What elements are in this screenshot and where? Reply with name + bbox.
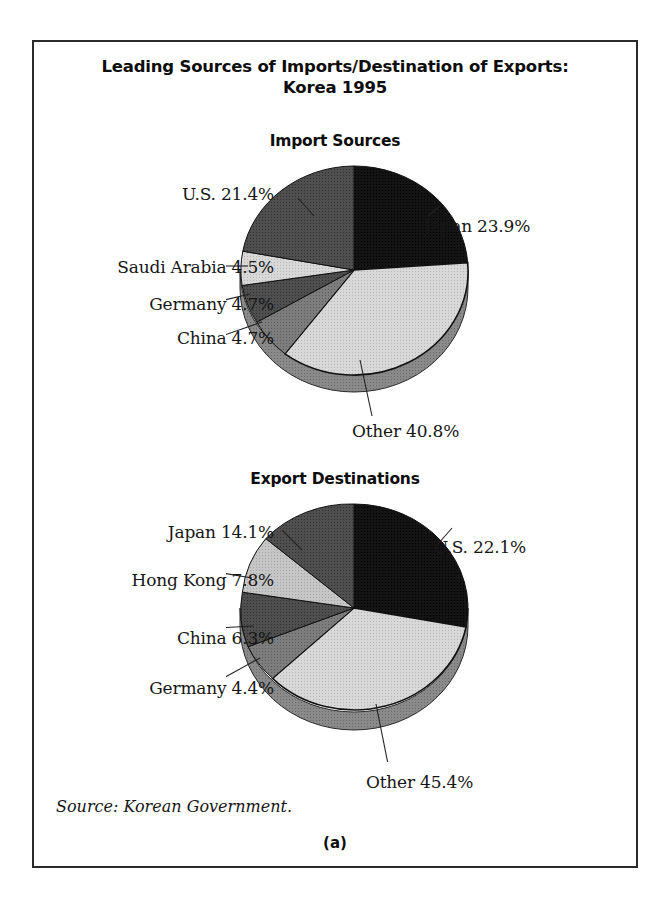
page-title: Leading Sources of Imports/Destination o… bbox=[34, 56, 636, 98]
pie-label-exports-germany: Germany 4.4% bbox=[44, 678, 274, 698]
figure-title-line-1: Leading Sources of Imports/Destination o… bbox=[101, 57, 568, 76]
pie-label-exports-china: China 6.3% bbox=[44, 628, 274, 648]
pie-chart-imports: U.S. 21.4% Saudi Arabia 4.5% Germany 4.7… bbox=[34, 154, 636, 454]
pie-label-exports-other: Other 45.4% bbox=[366, 772, 473, 792]
pie-label-imports-germany: Germany 4.7% bbox=[44, 294, 274, 314]
pie-chart-exports: Japan 14.1% Hong Kong 7.8% China 6.3% Ge… bbox=[34, 492, 636, 792]
pie-label-exports-hong-kong: Hong Kong 7.8% bbox=[44, 570, 274, 590]
pie-label-exports-us: U.S. 22.1% bbox=[434, 537, 526, 557]
pie-label-imports-other: Other 40.8% bbox=[352, 421, 459, 441]
panel-label: (a) bbox=[34, 834, 636, 852]
pie-label-imports-china: China 4.7% bbox=[44, 328, 274, 348]
source-note: Source: Korean Government. bbox=[56, 797, 292, 816]
chart-title-imports: Import Sources bbox=[34, 132, 636, 150]
pie-label-imports-saudi-arabia: Saudi Arabia 4.5% bbox=[44, 257, 274, 277]
pie-label-exports-japan: Japan 14.1% bbox=[44, 522, 274, 542]
pie-slice-imports-us[interactable] bbox=[243, 166, 354, 270]
figure-title-line-2: Korea 1995 bbox=[283, 78, 387, 97]
pie-slice-exports-us[interactable] bbox=[354, 504, 468, 627]
figure-frame: Leading Sources of Imports/Destination o… bbox=[32, 40, 638, 868]
pie-label-imports-japan: Japan 23.9% bbox=[424, 216, 530, 236]
chart-title-exports: Export Destinations bbox=[34, 470, 636, 488]
pie-label-imports-us: U.S. 21.4% bbox=[44, 184, 274, 204]
